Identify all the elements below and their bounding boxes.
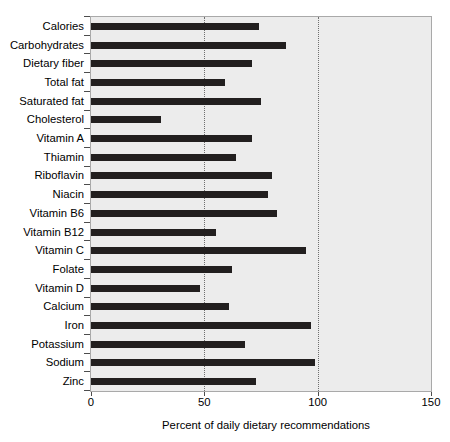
y-axis-label-vitamin-b12: Vitamin B12: [0, 227, 84, 238]
y-axis-label-niacin: Niacin: [0, 189, 84, 200]
y-axis-label-calcium: Calcium: [0, 301, 84, 312]
dietary-recommendations-bar-chart: CaloriesCarbohydratesDietary fiberTotal …: [0, 0, 450, 442]
bar: [91, 378, 256, 385]
bar: [91, 79, 225, 86]
bar: [91, 285, 200, 292]
y-axis-label-vitamin-b6: Vitamin B6: [0, 208, 84, 219]
plot-area: [90, 16, 432, 392]
y-axis-label-sodium: Sodium: [0, 357, 84, 368]
bar: [91, 359, 315, 366]
y-axis-label-dietary-fiber: Dietary fiber: [0, 58, 84, 69]
y-axis-label-carbohydrates: Carbohydrates: [0, 40, 84, 51]
y-axis-label-folate: Folate: [0, 264, 84, 275]
bar: [91, 191, 268, 198]
x-tick-label-150: 150: [422, 396, 441, 408]
y-axis-label-vitamin-a: Vitamin A: [0, 133, 84, 144]
bar: [91, 247, 306, 254]
y-axis-label-cholesterol: Cholesterol: [0, 114, 84, 125]
bar: [91, 60, 252, 67]
bar: [91, 229, 216, 236]
y-axis-label-riboflavin: Riboflavin: [0, 170, 84, 181]
y-axis-label-calories: Calories: [0, 21, 84, 32]
bar: [91, 341, 245, 348]
x-axis-title-text: Percent of daily dietary recommendations: [162, 419, 370, 431]
bar: [91, 116, 161, 123]
bar: [91, 135, 252, 142]
bar: [91, 172, 272, 179]
bar: [91, 266, 232, 273]
bar-series: [91, 17, 431, 391]
x-tick-label-100: 100: [308, 396, 327, 408]
x-axis-title: Percent of daily dietary recommendations: [0, 419, 450, 431]
bar: [91, 23, 259, 30]
y-axis-label-vitamin-d: Vitamin D: [0, 283, 84, 294]
x-tick-label-0: 0: [88, 396, 94, 408]
x-axis-tick-labels: 050100150: [0, 396, 450, 412]
y-axis-label-total-fat: Total fat: [0, 77, 84, 88]
bar: [91, 98, 261, 105]
y-axis-label-potassium: Potassium: [0, 339, 84, 350]
bar: [91, 322, 311, 329]
y-axis-label-vitamin-c: Vitamin C: [0, 245, 84, 256]
x-tick-label-50: 50: [198, 396, 211, 408]
y-axis-category-labels: CaloriesCarbohydratesDietary fiberTotal …: [0, 16, 84, 392]
bar: [91, 42, 286, 49]
y-axis-label-zinc: Zinc: [0, 376, 84, 387]
y-axis-label-iron: Iron: [0, 320, 84, 331]
bar: [91, 303, 229, 310]
bar: [91, 154, 236, 161]
y-axis-label-saturated-fat: Saturated fat: [0, 96, 84, 107]
y-axis-label-thiamin: Thiamin: [0, 152, 84, 163]
bar: [91, 210, 277, 217]
